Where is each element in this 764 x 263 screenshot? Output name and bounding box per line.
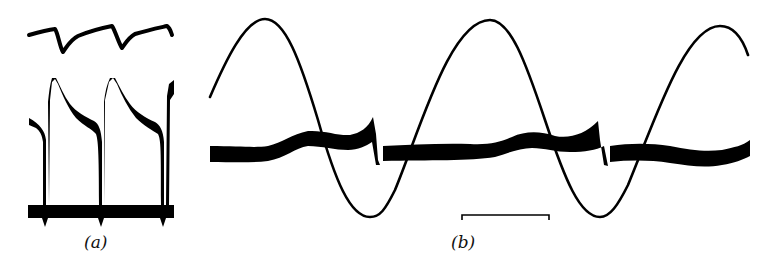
panel-b-response-band-3 [610, 140, 750, 166]
panel-a [28, 26, 174, 227]
panel-a-tick-2 [98, 218, 104, 227]
panel-a-upper-trace [29, 26, 172, 52]
panel-a-lower-trace-segment-4 [166, 80, 174, 205]
panel-b-scale-bar [462, 215, 549, 220]
panel-a-label: (a) [84, 232, 107, 252]
panel-a-lower-trace-segment-2 [48, 78, 102, 205]
panel-b-response-band-2 [383, 121, 608, 166]
panel-b-response-band-1 [210, 117, 380, 165]
panel-b-sinusoid [210, 19, 748, 217]
panel-a-tick-1 [42, 218, 48, 227]
panel-a-baseline-bar [28, 205, 174, 218]
panel-b [210, 19, 750, 220]
panel-a-lower-trace-segment-3 [104, 78, 164, 205]
figure-canvas [0, 0, 764, 263]
panel-a-lower-trace-segment-1 [29, 118, 46, 205]
panel-a-tick-3 [160, 218, 166, 227]
panel-b-label: (b) [451, 232, 475, 252]
